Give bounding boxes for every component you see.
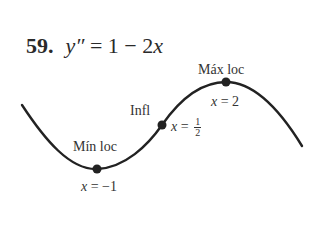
max-x-value: x = 2 (211, 94, 239, 110)
inflection-point (158, 121, 167, 130)
max-label: Máx loc (198, 62, 244, 78)
fraction: 12 (194, 117, 201, 138)
curve-diagram (0, 0, 313, 246)
min-label: Mín loc (73, 139, 117, 155)
local-min-point (93, 165, 102, 174)
inflection-label: Infl (130, 103, 150, 119)
local-max-point (222, 78, 231, 87)
min-x-value: x = −1 (81, 179, 117, 195)
x-eq: = (177, 119, 192, 134)
fraction-denominator: 2 (194, 128, 201, 138)
x-eq: = 2 (217, 94, 239, 109)
x-eq: = −1 (87, 179, 117, 194)
inflection-x-value: x = 12 (171, 117, 201, 138)
